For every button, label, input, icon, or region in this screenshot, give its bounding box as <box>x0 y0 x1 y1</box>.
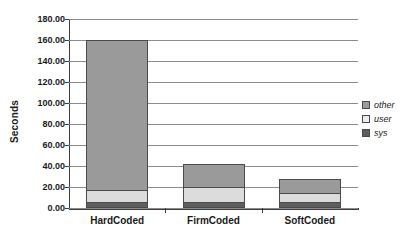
y-axis-tick-label: 60.00 <box>5 140 65 150</box>
y-axis-tick <box>65 82 69 83</box>
bar-segment-other <box>280 180 340 194</box>
y-axis-tick-label: 160.00 <box>5 35 65 45</box>
x-axis-label-firmcoded: FirmCoded <box>187 215 240 226</box>
legend-swatch-sys-icon <box>362 129 370 137</box>
stacked-bar-chart: Seconds other user sys 0.0020.0040.0060.… <box>0 0 412 243</box>
bar-segment-sys <box>87 203 147 207</box>
plot-area <box>69 19 358 208</box>
legend-label-sys: sys <box>374 128 388 138</box>
bar-segment-other <box>184 165 244 187</box>
y-axis-tick-label: 140.00 <box>5 56 65 66</box>
y-axis-tick-label: 80.00 <box>5 119 65 129</box>
y-axis-tick-label: 20.00 <box>5 182 65 192</box>
y-axis-tick-label: 100.00 <box>5 98 65 108</box>
legend-item-sys: sys <box>362 128 395 138</box>
bar-segment-sys <box>184 203 244 207</box>
legend-item-user: user <box>362 114 395 124</box>
x-axis-label-softcoded: SoftCoded <box>285 215 336 226</box>
chart-legend: other user sys <box>362 100 395 138</box>
bar-softcoded[interactable] <box>279 179 341 208</box>
x-axis-separator <box>165 208 166 213</box>
y-axis-tick-label: 180.00 <box>5 14 65 24</box>
x-axis-separator <box>262 208 263 213</box>
bar-segment-other <box>87 41 147 190</box>
gridline <box>69 19 358 20</box>
legend-item-other: other <box>362 100 395 110</box>
gridline <box>69 208 358 209</box>
bar-firmcoded[interactable] <box>183 164 245 208</box>
y-axis-tick-label: 40.00 <box>5 161 65 171</box>
y-axis-tick <box>65 124 69 125</box>
legend-swatch-user-icon <box>362 115 370 123</box>
bar-segment-sys <box>280 203 340 207</box>
bar-segment-user <box>280 193 340 203</box>
y-axis-tick <box>65 187 69 188</box>
bar-segment-user <box>87 190 147 202</box>
y-axis-tick <box>65 208 69 209</box>
bar-segment-user <box>184 187 244 203</box>
y-axis-tick <box>65 166 69 167</box>
x-axis-label-hardcoded: HardCoded <box>90 215 144 226</box>
y-axis-tick <box>65 19 69 20</box>
legend-label-other: other <box>374 100 395 110</box>
legend-swatch-other-icon <box>362 101 370 109</box>
legend-label-user: user <box>374 114 392 124</box>
y-axis-tick <box>65 61 69 62</box>
y-axis-tick <box>65 103 69 104</box>
y-axis-tick <box>65 145 69 146</box>
y-axis-tick <box>65 40 69 41</box>
y-axis-tick-label: 0.00 <box>5 203 65 213</box>
y-axis-tick-label: 120.00 <box>5 77 65 87</box>
bar-hardcoded[interactable] <box>86 40 148 208</box>
